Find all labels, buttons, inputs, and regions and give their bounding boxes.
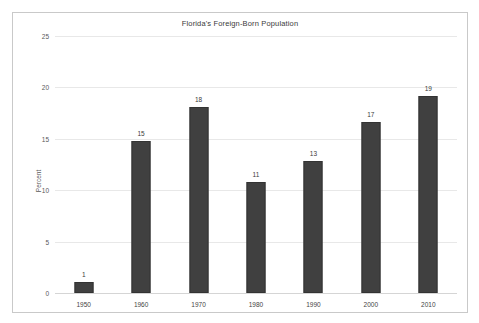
bar-value-label-1970: 18 [195,96,202,103]
y-axis-tick-25: 25 [42,33,49,40]
x-axis-tick-2000: 2000 [364,301,378,308]
x-axis-tick-1960: 1960 [134,301,148,308]
bar-1960[interactable] [132,141,151,293]
bar-value-label-1990: 13 [310,150,317,157]
bar-group-1980[interactable]: 111980 [227,13,284,312]
bar-value-label-1980: 11 [253,171,260,178]
bar-1980[interactable] [246,182,265,293]
bar-value-label-2000: 17 [367,111,374,118]
chart-container: Florida's Foreign-Born Population Percen… [12,12,468,313]
x-axis-tick-1990: 1990 [306,301,320,308]
y-axis-tick-5: 5 [45,238,49,245]
bar-1950[interactable] [74,282,93,293]
x-axis-tick-1970: 1970 [191,301,205,308]
x-axis-tick-1950: 1950 [76,301,90,308]
bar-group-2000[interactable]: 172000 [342,13,399,312]
bar-group-2010[interactable]: 192010 [400,13,457,312]
bar-group-1960[interactable]: 151960 [112,13,169,312]
x-axis-tick-1980: 1980 [249,301,263,308]
plot-area: 0510152025119501519601819701119801319901… [55,13,457,312]
bar-1970[interactable] [189,107,208,293]
bar-value-label-2010: 19 [425,85,432,92]
y-axis-title: Percent [35,170,42,192]
bar-value-label-1950: 1 [82,271,86,278]
bar-2010[interactable] [419,96,438,293]
y-axis-tick-15: 15 [42,135,49,142]
bar-group-1950[interactable]: 11950 [55,13,112,312]
x-axis-tick-2010: 2010 [421,301,435,308]
bar-group-1970[interactable]: 181970 [170,13,227,312]
y-axis-tick-20: 20 [42,84,49,91]
bar-value-label-1960: 15 [138,130,145,137]
bar-group-1990[interactable]: 131990 [285,13,342,312]
y-axis-tick-0: 0 [45,290,49,297]
bar-2000[interactable] [361,122,380,293]
bar-1990[interactable] [304,161,323,293]
y-axis-tick-10: 10 [42,187,49,194]
